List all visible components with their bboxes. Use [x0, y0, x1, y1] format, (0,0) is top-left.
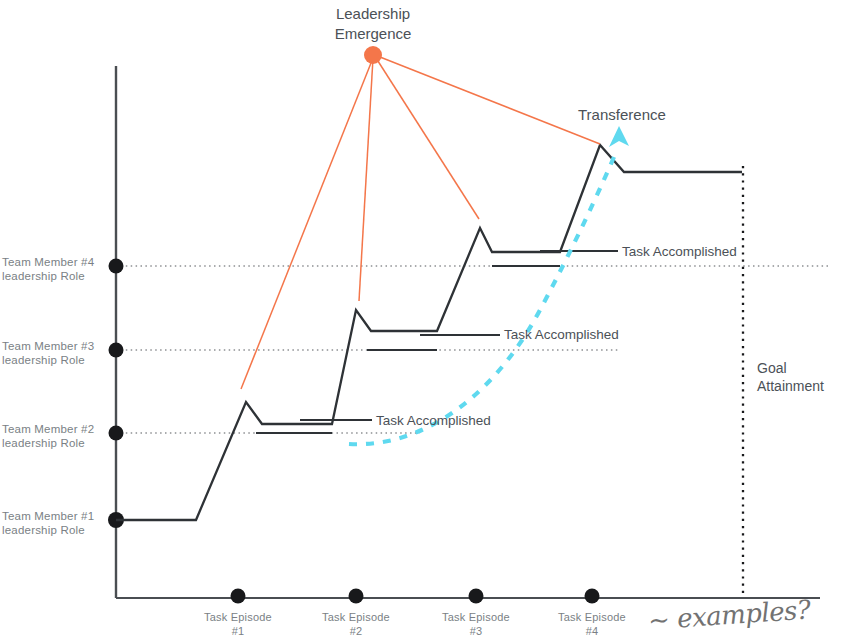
emergence-ray-1 [241, 58, 373, 389]
diagram-svg [0, 0, 856, 640]
emergence-ray-4 [380, 57, 600, 144]
x-axis-label-episode-2: Task Episode #2 [296, 610, 416, 638]
y-tick-dot-member-4 [109, 259, 124, 274]
task-accomplished-label-3: Task Accomplished [622, 243, 737, 260]
goal-attainment-label: Goal Attainment [757, 359, 853, 395]
emergence-ray-3 [376, 58, 479, 219]
x-axis-label-episode-4: Task Episode #4 [532, 610, 652, 638]
x-tick-dot-episode-1 [231, 589, 246, 604]
y-axis-label-member-3: Team Member #3 leadership Role [2, 339, 110, 367]
y-tick-dot-member-2 [109, 426, 124, 441]
task-accomplished-label-1: Task Accomplished [376, 412, 491, 429]
x-tick-dot-episode-4 [585, 589, 600, 604]
y-tick-dot-member-3 [109, 343, 124, 358]
y-axis-label-member-2: Team Member #2 leadership Role [2, 422, 110, 450]
x-tick-dot-episode-2 [349, 589, 364, 604]
x-tick-dot-episode-3 [469, 589, 484, 604]
transference-arrowhead [609, 126, 629, 147]
leadership-trajectory-line [116, 145, 742, 520]
diagram-canvas: Team Member #4 leadership Role Team Memb… [0, 0, 856, 640]
transference-curve [349, 150, 617, 444]
x-axis-label-episode-3: Task Episode #3 [416, 610, 536, 638]
y-axis-label-member-1: Team Member #1 leadership Role [2, 509, 110, 537]
leadership-emergence-title: Leadership Emergence [298, 4, 448, 44]
y-axis-label-member-4: Team Member #4 leadership Role [2, 255, 110, 283]
transference-title: Transference [578, 105, 666, 125]
task-accomplished-label-2: Task Accomplished [504, 326, 619, 343]
emergence-ray-2 [359, 58, 373, 301]
leadership-emergence-node [364, 46, 382, 64]
x-axis-label-episode-1: Task Episode #1 [178, 610, 298, 638]
